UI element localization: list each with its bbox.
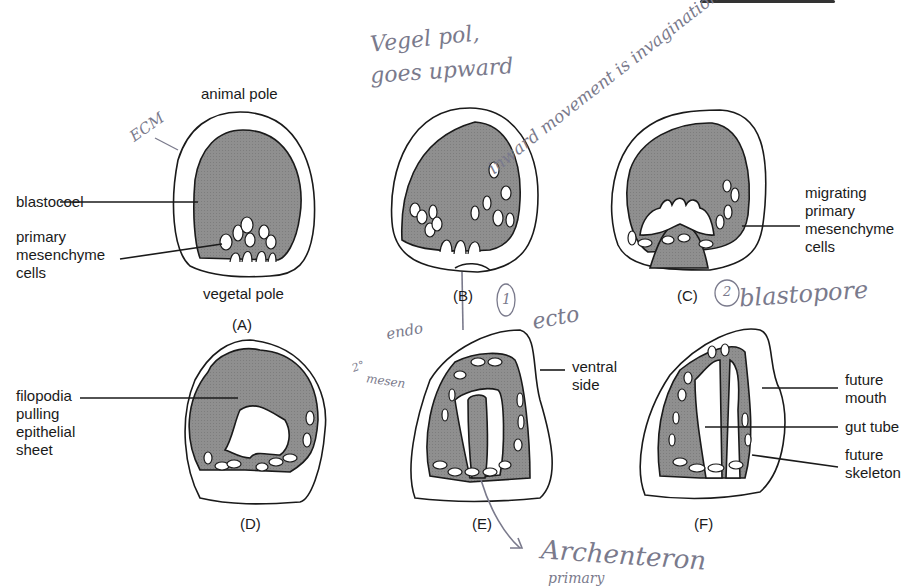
panel-letter-f: (F) (694, 515, 713, 532)
panel-f-embryo (640, 329, 838, 498)
label-filopodia: filopodia pulling epithelial sheet (16, 387, 75, 459)
panel-letter-e: (E) (472, 515, 492, 532)
label-blastocoel: blastocoel (16, 193, 84, 211)
handwritten-archenteron-sub: primary (548, 570, 604, 586)
label-animal-pole: animal pole (201, 85, 278, 103)
panel-letter-b: (B) (453, 287, 473, 304)
label-gut-tube: gut tube (845, 418, 899, 436)
label-future-skeleton: future skeleton (845, 446, 901, 482)
label-migrating-primary-mesenchyme: migrating primary mesenchyme cells (805, 184, 894, 256)
panel-letter-a: (A) (232, 316, 252, 333)
label-vegetal-pole: vegetal pole (203, 285, 284, 303)
panel-letter-c: (C) (677, 287, 698, 304)
label-future-mouth: future mouth (845, 371, 887, 407)
panel-letter-d: (D) (240, 515, 261, 532)
label-primary-mesenchyme: primary mesenchyme cells (16, 228, 105, 282)
handwritten-circle-1-number: 1 (502, 291, 511, 307)
panel-c-embryo (612, 110, 800, 270)
label-ventral-side: ventral side (572, 358, 617, 394)
panel-d-embryo (80, 340, 326, 504)
handwritten-circle-2-number: 2 (723, 284, 731, 299)
